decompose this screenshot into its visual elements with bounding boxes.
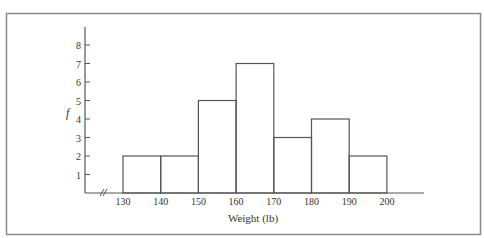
x-axis-label: Weight (lb) <box>228 212 278 225</box>
y-tick-label: 6 <box>76 77 81 88</box>
y-tick-label: 8 <box>76 40 81 51</box>
bars <box>123 64 387 194</box>
x-tick-label: 160 <box>229 196 244 207</box>
x-tick-label: 150 <box>191 196 206 207</box>
x-tick-label: 130 <box>116 196 131 207</box>
histogram-bar <box>349 156 387 193</box>
y-axis-label: f <box>66 106 71 120</box>
y-tick-label: 4 <box>76 114 81 125</box>
histogram-chart: 12345678 130140150160170180190200 f Weig… <box>0 0 484 238</box>
histogram-bar <box>198 101 236 194</box>
histogram-bar <box>161 156 199 193</box>
y-tick-label: 3 <box>76 133 81 144</box>
y-axis: 12345678 <box>76 27 90 193</box>
x-tick-label: 190 <box>342 196 357 207</box>
x-tick-label: 140 <box>153 196 168 207</box>
y-tick-label: 2 <box>76 151 81 162</box>
histogram-bar <box>312 119 350 193</box>
histogram-bar <box>274 138 312 194</box>
x-tick-label: 200 <box>379 196 394 207</box>
x-tick-label: 170 <box>266 196 281 207</box>
y-tick-label: 7 <box>76 59 81 70</box>
x-axis: 130140150160170180190200 <box>85 189 424 207</box>
y-tick-label: 5 <box>76 96 81 107</box>
histogram-bar <box>236 64 274 194</box>
x-tick-label: 180 <box>304 196 319 207</box>
y-tick-label: 1 <box>76 170 81 181</box>
histogram-bar <box>123 156 161 193</box>
